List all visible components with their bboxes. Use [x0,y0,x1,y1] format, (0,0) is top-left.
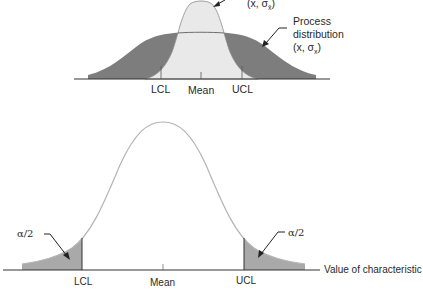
right-alpha-arrow [258,232,285,258]
bottom-ucl-label: UCL [236,275,256,286]
left-tail-area [22,238,82,270]
process-distribution-arrow [262,28,287,47]
top-mean-label: Mean [188,84,214,96]
top-ucl-label: UCL [232,83,253,95]
right-tail-area [244,238,305,270]
left-alpha-label: α/2 [17,228,33,239]
bottom-lcl-label: LCL [74,276,92,287]
process-distribution-label-line1: Process [293,15,331,27]
bell-curve [22,122,305,264]
sample-distribution-arrow [213,0,225,7]
right-alpha-label: α/2 [288,227,304,238]
sample-distribution-label: (x̄, σx̄) [247,0,275,14]
process-distribution-label-line2: distribution [293,28,344,40]
axis-title: Value of characteristic [324,264,422,275]
control-chart-diagram [0,0,423,301]
top-lcl-label: LCL [151,83,170,95]
process-distribution-params: (x, σx) [293,41,321,58]
bottom-mean-label: Mean [150,277,175,288]
